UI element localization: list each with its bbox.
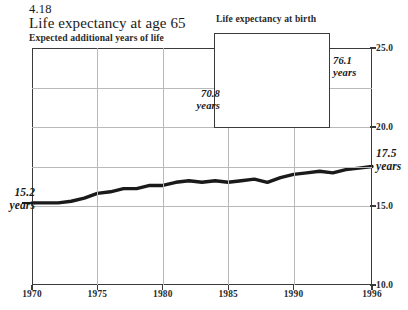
main-start-callout: 15.2 years [2,186,35,212]
gridline-vertical [97,48,98,285]
y-axis-tick-label: 25.0 [376,43,393,53]
gridline-vertical [163,48,164,285]
inset-end-unit: years [333,67,356,78]
inset-start-callout: 70.8 years [186,88,220,112]
x-axis-tick-label: 1990 [284,289,304,299]
gridline-horizontal [32,167,372,168]
page-title: Life expectancy at age 65 [29,15,186,32]
y-axis-tick-label: 15.0 [376,201,393,211]
figure-subtitle: Expected additional years of life [29,32,164,43]
x-axis-tick-label: 1996 [362,289,382,299]
main-end-value: 17.5 [376,147,397,159]
inset-start-unit: years [197,100,220,111]
main-end-callout: 17.5 years [376,147,408,173]
inset-chart-title: Life expectancy at birth [216,13,316,24]
inset-end-callout: 76.1 years [333,55,367,79]
y-axis-tick-label: 20.0 [376,122,393,132]
x-axis-tick-label: 1980 [153,289,173,299]
inset-chart-frame [214,33,330,128]
inset-end-value: 76.1 [333,55,352,66]
x-axis-tick-label: 1970 [22,289,42,299]
gridline-horizontal [32,206,372,207]
main-start-unit: years [10,199,35,211]
inset-chart-plot-area [214,33,330,128]
main-end-unit: years [376,160,401,172]
x-axis-tick-label: 1975 [88,289,108,299]
x-axis-tick-label: 1985 [218,289,238,299]
inset-start-value: 70.8 [201,88,220,99]
main-start-value: 15.2 [14,186,35,198]
